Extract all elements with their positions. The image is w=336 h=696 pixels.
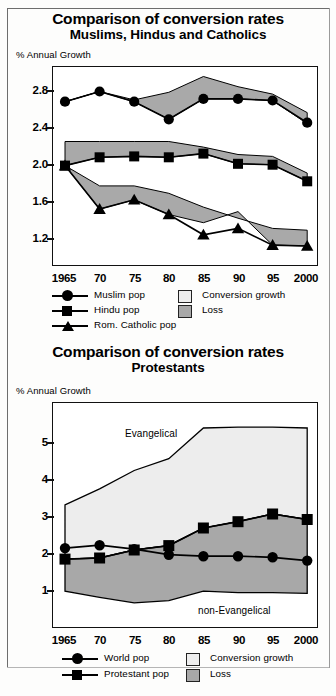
- legend-label: Rom. Catholic pop: [94, 319, 176, 330]
- chart2-ytick-2: 3: [12, 510, 48, 522]
- circle-marker-icon: [62, 290, 73, 301]
- page-frame-right: [329, 8, 330, 668]
- chart1-ytick-mark-2: [47, 164, 54, 166]
- chart2-ytick-3: 2: [12, 547, 48, 559]
- chart1-ytick-0: 2.8: [12, 84, 48, 96]
- legend-item-rom-catholic-pop[interactable]: Rom. Catholic pop: [48, 319, 208, 333]
- chart2-ytick-1: 4: [12, 473, 48, 485]
- circle-marker-icon: [72, 653, 83, 664]
- chart1-ytick-mark-0: [47, 90, 54, 92]
- chart2-title: Comparison of conversion rates: [0, 343, 336, 360]
- legend-label: Loss: [202, 304, 223, 315]
- legend-item-conversion-growth[interactable]: Conversion growth: [172, 289, 322, 303]
- page-frame-top: [7, 8, 329, 9]
- chart2-plot-area: Evangelical non-Evangelical: [52, 402, 318, 628]
- chart1-title: Comparison of conversion rates: [0, 10, 336, 27]
- chart2-ytick-mark-1: [47, 479, 54, 481]
- legend-label: Conversion growth: [202, 289, 285, 300]
- light-swatch-icon: [178, 290, 192, 303]
- chart2-ytick-mark-3: [47, 553, 54, 555]
- chart2-ytick-mark-4: [47, 590, 54, 592]
- legend-label: Loss: [210, 668, 231, 679]
- chart1-ytick-4: 1.2: [12, 232, 48, 244]
- chart1-legend: Muslim pop Hindu pop Rom. Catholic pop C…: [0, 289, 336, 333]
- legend-label: Conversion growth: [210, 652, 293, 663]
- non-evangelical-annotation: non-Evangelical: [198, 605, 271, 616]
- triangle-marker-icon: [62, 320, 74, 331]
- legend-label: Hindu pop: [94, 304, 140, 315]
- catholic-loss-band: [65, 166, 307, 246]
- chart1-ytick-mark-3: [47, 201, 54, 203]
- legend-item-conversion-growth[interactable]: Conversion growth: [180, 652, 330, 666]
- chart1-subtitle: Muslims, Hindus and Catholics: [0, 27, 336, 43]
- chart1-ytick-3: 1.6: [12, 195, 48, 207]
- chart1-ytick-2: 2.0: [12, 158, 48, 170]
- light-swatch-icon: [186, 653, 200, 666]
- chart1-plot-area: [52, 66, 318, 266]
- chart2-legend: World pop Protestant pop Conversion grow…: [0, 652, 336, 686]
- chart1-svg: [53, 67, 316, 264]
- chart2-ytick-4: 1: [12, 584, 48, 596]
- chart1-ytick-mark-4: [47, 238, 54, 240]
- page-frame-left: [7, 8, 8, 668]
- chart2-xtick-7: 2000: [283, 634, 329, 646]
- evangelical-annotation: Evangelical: [125, 428, 177, 439]
- legend-label: World pop: [104, 652, 149, 663]
- gray-swatch-icon: [178, 305, 192, 318]
- chart1-y-axis-label: % Annual Growth: [16, 49, 91, 60]
- legend-label: Protestant pop: [104, 668, 169, 679]
- legend-item-loss[interactable]: Loss: [180, 668, 330, 682]
- scanned-page: Comparison of conversion rates Muslims, …: [0, 0, 336, 696]
- chart2-svg: [53, 403, 316, 626]
- gray-swatch-icon: [186, 669, 200, 682]
- chart1-ytick-mark-1: [47, 127, 54, 129]
- chart2-subtitle: Protestants: [0, 360, 336, 376]
- square-marker-icon: [72, 669, 82, 680]
- square-marker-icon: [62, 305, 72, 316]
- legend-label: Muslim pop: [94, 289, 145, 300]
- chart2-ytick-mark-2: [47, 516, 54, 518]
- legend-item-loss[interactable]: Loss: [172, 304, 322, 318]
- chart1-xtick-7: 2000: [283, 272, 329, 284]
- chart1-ytick-1: 2.4: [12, 121, 48, 133]
- chart2-y-axis-label: % Annual Growth: [16, 385, 91, 396]
- chart2-ytick-0: 5: [12, 436, 48, 448]
- chart2-ytick-mark-0: [47, 442, 54, 444]
